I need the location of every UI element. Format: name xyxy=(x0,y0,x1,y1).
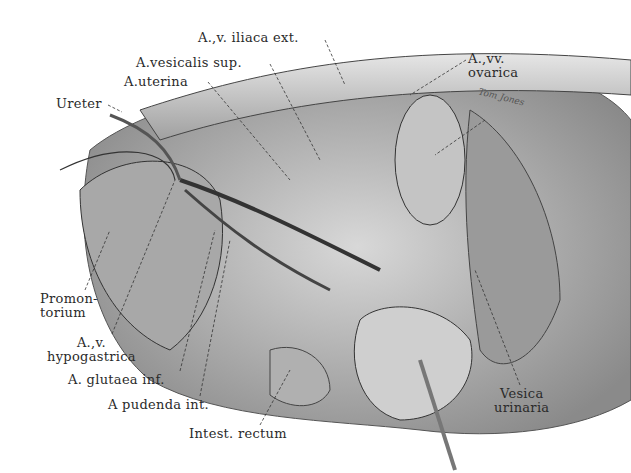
label-promontorium: Promon- torium xyxy=(40,292,98,320)
label-iliaca-ext: A.,v. iliaca ext. xyxy=(198,31,299,45)
label-vesicalis-sup: A.vesicalis sup. xyxy=(136,56,242,70)
label-uterina: A.uterina xyxy=(124,75,188,89)
label-vesica-urinaria: Vesica urinaria xyxy=(494,387,549,415)
label-hypogastrica: A.,v. hypogastrica xyxy=(47,336,136,364)
label-pudenda-int: A pudenda int. xyxy=(108,398,209,412)
anatomical-figure: Tom Jones A.,v. iliaca ext. A.vesicalis … xyxy=(0,0,631,473)
label-glutaea-inf: A. glutaea inf. xyxy=(68,373,165,387)
label-ovarica: A.,vv. ovarica xyxy=(468,52,518,80)
label-intest-rectum: Intest. rectum xyxy=(189,427,287,441)
label-ureter: Ureter xyxy=(56,97,102,111)
